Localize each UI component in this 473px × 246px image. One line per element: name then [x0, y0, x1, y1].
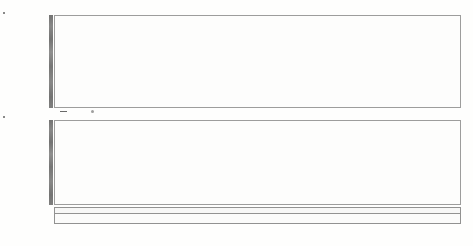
figure-root [0, 0, 473, 246]
top-chart [0, 0, 473, 110]
bottom-chart-y-axis-spine [49, 120, 53, 205]
top-chart-corner-tag [3, 9, 7, 18]
x-axis-year-labels [54, 214, 461, 224]
bottom-chart [0, 110, 473, 246]
bottom-chart-corner-tag [3, 113, 7, 122]
bullet-icon [3, 12, 5, 14]
bullet-icon [3, 116, 5, 118]
x-axis-minor-tick-band [54, 207, 461, 214]
bottom-chart-plot-area [54, 120, 461, 205]
top-chart-y-axis-spine [49, 15, 53, 108]
top-chart-plot-area [54, 15, 461, 108]
